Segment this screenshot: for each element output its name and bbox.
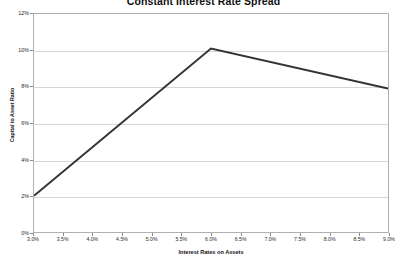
y-tick-label: 6% bbox=[0, 120, 29, 126]
x-tick-mark bbox=[270, 233, 271, 236]
y-tick-label: 8% bbox=[0, 83, 29, 89]
plot-area bbox=[33, 13, 389, 233]
chart-container: Constant Interest Rate Spread Capital to… bbox=[0, 0, 407, 263]
x-tick-mark bbox=[122, 233, 123, 236]
x-tick-label: 9.0% bbox=[369, 236, 407, 242]
y-tick-label: 10% bbox=[0, 47, 29, 53]
x-tick-mark bbox=[389, 233, 390, 236]
x-tick-mark bbox=[92, 233, 93, 236]
x-tick-mark bbox=[300, 233, 301, 236]
x-axis-title: Interest Rates on Assets bbox=[33, 249, 389, 255]
y-tick-label: 12% bbox=[0, 10, 29, 16]
x-tick-mark bbox=[33, 233, 34, 236]
x-tick-mark bbox=[152, 233, 153, 236]
x-tick-mark bbox=[63, 233, 64, 236]
x-tick-mark bbox=[181, 233, 182, 236]
x-tick-mark bbox=[330, 233, 331, 236]
y-tick-label: 4% bbox=[0, 157, 29, 163]
x-tick-mark bbox=[211, 233, 212, 236]
y-tick-label: 2% bbox=[0, 193, 29, 199]
data-line-series bbox=[34, 14, 388, 232]
x-tick-mark bbox=[359, 233, 360, 236]
x-tick-mark bbox=[241, 233, 242, 236]
